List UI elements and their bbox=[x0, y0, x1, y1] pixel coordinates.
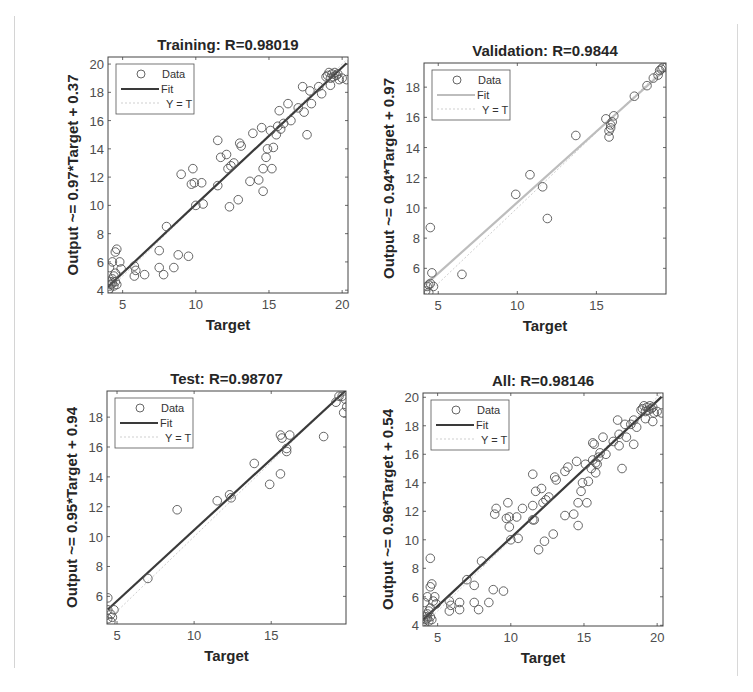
x-tick-label: 20 bbox=[650, 630, 664, 645]
y-tick-label: 12 bbox=[405, 504, 419, 519]
y-tick-label: 10 bbox=[405, 533, 419, 548]
legend: DataFitY = T bbox=[431, 400, 509, 450]
y-tick-label: 8 bbox=[412, 561, 419, 576]
x-tick-label: 5 bbox=[434, 630, 441, 645]
y-tick-label: 14 bbox=[405, 476, 419, 491]
legend-yt-label: Y = T bbox=[481, 434, 507, 446]
x-tick-label: 10 bbox=[504, 630, 518, 645]
plot-title: All: R=0.98146 bbox=[492, 372, 594, 389]
y-tick-label: 20 bbox=[405, 390, 419, 405]
x-axis-label: Target bbox=[521, 649, 566, 666]
y-axis-label: Output ~= 0.96*Target + 0.54 bbox=[379, 408, 396, 610]
x-tick-label: 15 bbox=[577, 630, 591, 645]
regression-plot-svg: All: R=0.981465101520468101214161820Targ… bbox=[0, 0, 753, 692]
y-tick-label: 16 bbox=[405, 447, 419, 462]
y-tick-label: 4 bbox=[412, 618, 419, 633]
y-tick-label: 6 bbox=[412, 590, 419, 605]
y-tick-label: 18 bbox=[405, 419, 419, 434]
legend-data-label: Data bbox=[477, 404, 501, 416]
legend-fit-label: Fit bbox=[476, 419, 488, 431]
